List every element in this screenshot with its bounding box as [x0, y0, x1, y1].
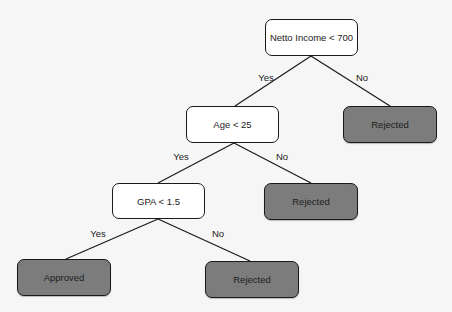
node-label: Rejected	[371, 119, 409, 130]
edge-line	[158, 219, 250, 261]
node-netto-income: Netto Income < 700	[265, 19, 358, 56]
edge-label-yes: Yes	[173, 151, 189, 162]
edge-line	[158, 143, 234, 183]
edge-label-no: No	[276, 151, 288, 162]
edge-line	[234, 143, 311, 183]
node-label: Approved	[44, 272, 85, 283]
node-label: Rejected	[292, 196, 330, 207]
node-label: Rejected	[233, 274, 271, 285]
edge-label-yes: Yes	[90, 228, 106, 239]
edge-line	[66, 219, 158, 259]
edge-label-no: No	[356, 72, 368, 83]
node-age: Age < 25	[186, 106, 279, 143]
node-rejected-income: Rejected	[343, 106, 437, 143]
node-gpa: GPA < 1.5	[112, 183, 205, 219]
node-label: GPA < 1.5	[137, 196, 180, 207]
edge-line	[311, 56, 390, 106]
node-rejected-gpa: Rejected	[205, 261, 299, 298]
edge-label-yes: Yes	[258, 72, 274, 83]
edge-label-no: No	[212, 228, 224, 239]
decision-tree-diagram: Netto Income < 700 Age < 25 Rejected GPA…	[0, 0, 452, 312]
node-rejected-age: Rejected	[264, 183, 358, 220]
node-label: Age < 25	[213, 119, 251, 130]
node-label: Netto Income < 700	[270, 32, 353, 43]
node-approved: Approved	[17, 259, 111, 296]
